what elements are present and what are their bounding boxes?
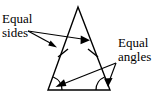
equal-angles-label: Equal angles — [118, 36, 151, 64]
equal-sides-label-line2: sides — [2, 26, 32, 40]
equal-angles-label-line1: Equal — [118, 36, 151, 50]
equal-sides-label: Equal sides — [2, 12, 32, 40]
right-base-angle-arc-icon — [96, 77, 105, 90]
right-side-tick-icon — [88, 49, 98, 57]
geometry-figure: Equal sides Equal angles — [0, 0, 156, 102]
angles-pointer-right-arrowhead-icon — [104, 78, 113, 87]
equal-angles-label-line2: angles — [118, 50, 151, 64]
angles-pointer-left-arrowhead-icon — [56, 79, 67, 87]
sides-pointer-left-arrowhead-icon — [48, 41, 57, 48]
sides-pointer-right-arrowhead-icon — [81, 35, 91, 44]
equal-sides-label-line1: Equal — [2, 12, 32, 26]
